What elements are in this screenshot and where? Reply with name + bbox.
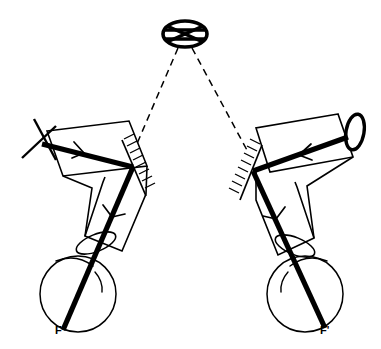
optical-diagram-svg: F xyxy=(0,0,381,349)
left-telescope-assembly: F xyxy=(22,119,155,336)
right-focal-label: F' xyxy=(320,324,330,336)
left-cornea-arc xyxy=(56,258,93,266)
left-lens-arc xyxy=(95,272,102,292)
right-eyeball-circle xyxy=(267,256,343,332)
target-reticle-icon xyxy=(163,21,207,47)
left-focal-label: F xyxy=(55,324,62,336)
sight-line-left xyxy=(136,48,178,146)
left-cross-stroke-a xyxy=(34,119,56,160)
right-lens-arc xyxy=(281,272,288,292)
optical-diagram-canvas: F xyxy=(0,0,381,349)
right-observer-eye xyxy=(267,256,343,332)
right-elbow-inner-edge xyxy=(307,157,353,238)
right-telescope-assembly: F' xyxy=(229,113,367,336)
sight-line-right xyxy=(192,48,248,152)
right-objective-lens-ellipse xyxy=(343,113,367,152)
left-cross-reticle-icon xyxy=(22,119,56,160)
